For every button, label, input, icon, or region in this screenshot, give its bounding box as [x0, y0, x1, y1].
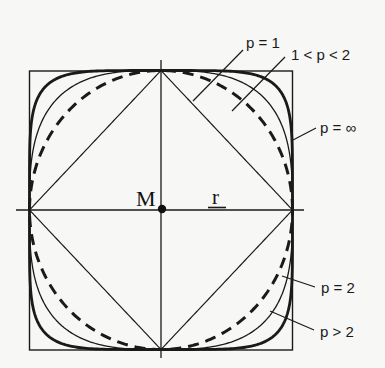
leader-p1to2 — [232, 57, 285, 111]
label-p-gt-2: p > 2 — [320, 323, 354, 340]
center-point-dot — [158, 205, 166, 213]
label-p-equals-1: p = 1 — [246, 34, 280, 51]
radius-label-r: r — [212, 185, 219, 209]
label-1-lt-p-lt-2: 1 < p < 2 — [291, 46, 350, 63]
leader-pinf — [293, 128, 316, 140]
label-p-equals-2: p = 2 — [321, 279, 355, 296]
unit-ball-diagram: M r p = 1 1 < p < 2 p = ∞ p = 2 p > 2 — [0, 0, 385, 368]
center-label-m: M — [136, 186, 156, 211]
label-p-equals-infinity: p = ∞ — [320, 119, 356, 136]
